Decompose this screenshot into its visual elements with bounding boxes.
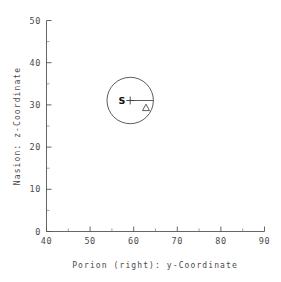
x-tick-label-50: 50	[84, 236, 95, 246]
x-tick-label-70: 70	[172, 236, 183, 246]
x-axis-title: Porion (right): y-Coordinate	[72, 261, 238, 270]
landmark-region-group: S	[107, 77, 153, 123]
cephalometric-scatter-figure: 40 50 60 70 80 90 0 10 20 30 40 50 Porio…	[0, 0, 281, 282]
y-tick-label-30: 30	[30, 100, 41, 110]
landmark-label-s: S	[119, 95, 126, 106]
y-tick-label-0: 0	[35, 227, 41, 237]
center-cross-icon	[126, 97, 134, 105]
x-tick-label-90: 90	[259, 236, 270, 246]
y-tick-label-10: 10	[30, 184, 41, 194]
triangle-marker-icon	[143, 104, 150, 110]
y-tick-label-40: 40	[30, 58, 41, 68]
x-tick-label-80: 80	[215, 236, 226, 246]
y-tick-label-20: 20	[30, 142, 41, 152]
plot-canvas: 40 50 60 70 80 90 0 10 20 30 40 50 Porio…	[0, 0, 281, 282]
x-tick-label-60: 60	[128, 236, 139, 246]
y-tick-label-50: 50	[30, 16, 41, 26]
x-tick-label-40: 40	[41, 236, 52, 246]
y-axis-title: Nasion: z-Coordinate	[13, 67, 22, 185]
